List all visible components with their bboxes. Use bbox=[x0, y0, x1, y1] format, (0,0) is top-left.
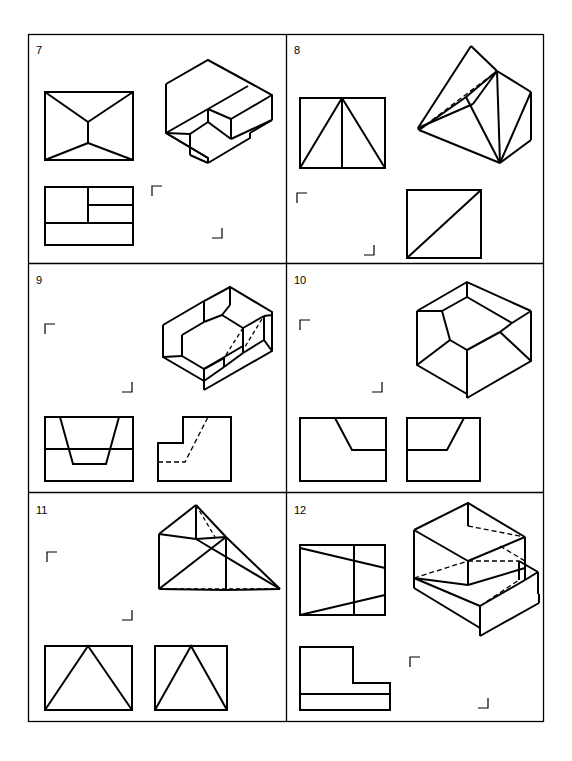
panel-number-7: 7 bbox=[36, 44, 42, 56]
worksheet-sheet: 7 bbox=[0, 0, 572, 761]
panel-number-10: 10 bbox=[294, 274, 306, 286]
panel-number-12: 12 bbox=[294, 504, 306, 516]
panel-number-8: 8 bbox=[294, 44, 300, 56]
panel-number-11: 11 bbox=[36, 504, 47, 516]
worksheet-canvas: 7 bbox=[0, 0, 572, 761]
panel-number-9: 9 bbox=[36, 274, 42, 286]
